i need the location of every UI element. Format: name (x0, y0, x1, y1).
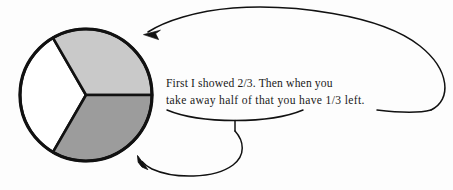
arrow-to-dark-slice-curve (142, 131, 242, 176)
underbrace-take-away-half (167, 110, 303, 131)
arrow-to-dark-slice-head (138, 156, 148, 170)
pie-chart (20, 29, 152, 161)
annotation-line-1: First I showed 2/3. Then when you (166, 76, 442, 93)
arrow-to-shaded-region-head (144, 30, 161, 39)
arrow-to-dark-slice (138, 131, 243, 176)
annotation-line-2: take away half of that you have 1/3 left… (166, 93, 442, 110)
underline-one-third-left (377, 110, 431, 112)
annotation-text: First I showed 2/3. Then when you take a… (166, 76, 442, 109)
underbrace-curve (167, 110, 303, 121)
